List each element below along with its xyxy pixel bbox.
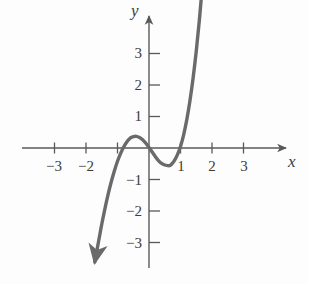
x-axis-label: x (288, 152, 296, 172)
y-tick-label--2: −2 (106, 203, 142, 220)
y-tick-label-1: 1 (112, 108, 142, 125)
y-tick-label--1: −1 (106, 172, 142, 189)
x-tick-label-2: 2 (208, 158, 216, 175)
plot-canvas (0, 0, 309, 284)
x-tick-label-1: 1 (177, 158, 185, 175)
function-curve (95, 0, 207, 262)
x-tick-label--3: −3 (46, 158, 62, 175)
x-tick-label--2: −2 (78, 158, 94, 175)
y-axis-label: y (131, 1, 139, 21)
x-tick-label-3: 3 (240, 158, 248, 175)
y-tick-label--3: −3 (106, 235, 142, 252)
graph-figure: x y −3 −2 1 2 3 3 2 1 −1 −2 −3 (0, 0, 309, 284)
y-axis (149, 16, 160, 268)
y-tick-label-3: 3 (112, 45, 142, 62)
y-tick-label-2: 2 (112, 77, 142, 94)
